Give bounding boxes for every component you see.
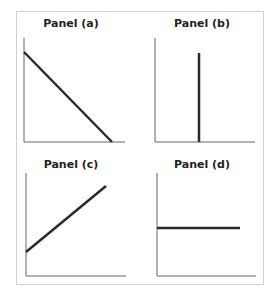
panel-a-curve: [24, 52, 112, 142]
panel-c-curve: [26, 186, 106, 252]
panels-graphic: [0, 0, 276, 293]
panel-a: [24, 38, 125, 142]
panel-d: [157, 173, 256, 276]
panel-b: [155, 38, 255, 142]
panel-c: [26, 173, 126, 276]
